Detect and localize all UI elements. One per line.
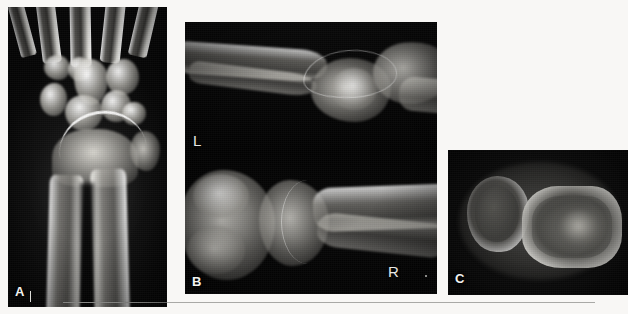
- lower-lateral-carpal-lobe-upper: [193, 174, 249, 218]
- carpal-scaphoid: [40, 83, 67, 116]
- film-artifact-dot: [425, 275, 427, 277]
- figure-root: A L R B: [0, 0, 628, 314]
- ulnar-shaft: [90, 169, 130, 307]
- panel-a-pa-wrist-radiograph[interactable]: A: [8, 7, 167, 307]
- ct-bone-right-trabecular-focus: [560, 210, 598, 244]
- panel-a-label: A: [15, 285, 25, 298]
- interosseous-space: [80, 183, 94, 307]
- radial-shaft: [46, 175, 84, 307]
- panel-c-axial-ct-slice[interactable]: C: [448, 150, 628, 295]
- ct-bone-left-marrow: [475, 186, 519, 242]
- caption-divider-rule: [63, 302, 595, 303]
- side-marker-right: R: [388, 264, 399, 279]
- carpal-hamate: [106, 59, 139, 95]
- carpal-trapezium: [44, 55, 70, 80]
- panel-b-label: B: [192, 275, 202, 288]
- distal-ulna-head: [130, 131, 160, 171]
- panel-a-tick-mark: [30, 291, 31, 302]
- side-marker-left: L: [193, 133, 201, 148]
- lower-lateral-joint-line: [281, 180, 334, 264]
- panel-c-label: C: [455, 272, 465, 285]
- panel-b-lateral-wrist-radiographs[interactable]: L R B: [185, 22, 437, 294]
- lower-lateral-carpal-lobe-lower: [187, 226, 245, 274]
